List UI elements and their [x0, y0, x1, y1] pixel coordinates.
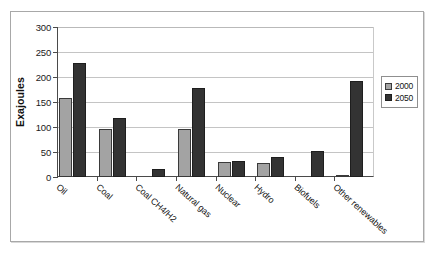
- bar-group: [334, 27, 374, 177]
- bar-group: [136, 27, 176, 177]
- y-axis-tick-label: 200: [36, 72, 51, 83]
- x-axis-tick: [334, 177, 335, 181]
- x-axis-tick: [176, 177, 177, 181]
- legend-item[interactable]: 2000: [385, 81, 413, 92]
- y-axis-title: Exajoules: [13, 27, 27, 177]
- y-axis-tick-label: 50: [41, 147, 51, 158]
- bar: [350, 81, 363, 177]
- bar-group: [176, 27, 216, 177]
- x-axis-tick: [136, 177, 137, 181]
- x-axis-category-label: Nuclear: [213, 182, 242, 210]
- x-axis-tick: [97, 177, 98, 181]
- x-axis-tick: [295, 177, 296, 181]
- bar: [178, 129, 191, 177]
- bar: [73, 63, 86, 177]
- bar: [257, 163, 270, 178]
- x-axis-tick: [255, 177, 256, 181]
- x-axis-category-label: Coal: [94, 182, 114, 202]
- chart-legend: 2000 2050: [381, 76, 418, 108]
- bar: [152, 169, 165, 178]
- bar: [113, 118, 126, 177]
- bar: [311, 151, 324, 177]
- bar: [232, 161, 245, 178]
- bar: [192, 88, 205, 177]
- x-axis-tick: [216, 177, 217, 181]
- legend-label: 2050: [395, 93, 413, 103]
- y-axis-tick-label: 150: [36, 97, 51, 108]
- bar: [218, 162, 231, 177]
- x-axis-category-label: Other renewables: [332, 182, 390, 236]
- legend-item[interactable]: 2050: [385, 92, 413, 103]
- bar: [99, 129, 112, 178]
- x-axis-category-label: Natural gas: [173, 182, 213, 220]
- bar: [271, 157, 284, 177]
- x-axis-labels: OilCoalCoal CH4/H2Natural gasNuclearHydr…: [57, 182, 397, 244]
- legend-swatch-2000-icon: [385, 83, 392, 90]
- y-axis-tick-label: 100: [36, 122, 51, 133]
- x-axis-category-label: Hydro: [252, 182, 276, 205]
- bar-group: [97, 27, 137, 177]
- y-axis-tick-label: 0: [46, 172, 51, 183]
- x-axis-category-label: Coal CH4/H2: [134, 182, 179, 224]
- legend-label: 2000: [395, 81, 413, 91]
- bar-group: [295, 27, 335, 177]
- y-axis-title-label: Exajoules: [14, 77, 26, 127]
- bar: [59, 98, 72, 178]
- bar-group: [216, 27, 256, 177]
- y-axis-tick-label: 250: [36, 47, 51, 58]
- bar-group: [57, 27, 97, 177]
- x-axis-category-label: Biofuels: [292, 182, 322, 210]
- x-axis-category-label: Oil: [54, 182, 69, 197]
- bars-layer: [57, 27, 374, 177]
- legend-swatch-2050-icon: [385, 94, 392, 101]
- bar-chart: Exajoules 050100150200250300 OilCoalCoal…: [0, 0, 431, 259]
- bar-group: [255, 27, 295, 177]
- y-axis-tick-label: 300: [36, 22, 51, 33]
